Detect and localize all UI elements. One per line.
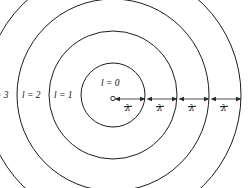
arrow-head-gap-2-left: [179, 97, 185, 102]
origin-point-marker: [111, 96, 115, 100]
shell-label-l3: l = 3: [0, 91, 9, 101]
spacing-label-gap-3: λ: [221, 104, 227, 113]
spacing-label-gap-0: λ: [125, 104, 131, 113]
shell-diagram-figure: l = 0 l = 1 l = 2 l = 3 λ λ λ λ: [0, 0, 249, 188]
lambda-bar-icon: λ: [157, 104, 163, 113]
shell-circle-l2: [17, 0, 209, 188]
shell-label-l1: l = 1: [54, 91, 73, 101]
spacing-label-gap-2: λ: [189, 104, 195, 113]
shell-label-l2: l = 2: [22, 91, 41, 101]
radial-measure-group: [115, 97, 242, 102]
shell-label-l0: l = 0: [101, 79, 120, 89]
arrow-head-gap-1-left: [147, 97, 153, 102]
lambda-bar-icon: λ: [189, 104, 195, 113]
lambda-bar-icon: λ: [221, 104, 227, 113]
arrow-head-gap-3-left: [211, 97, 217, 102]
shell-circle-l0: [81, 63, 145, 127]
spacing-label-gap-1: λ: [157, 104, 163, 113]
lambda-bar-icon: λ: [125, 104, 131, 113]
